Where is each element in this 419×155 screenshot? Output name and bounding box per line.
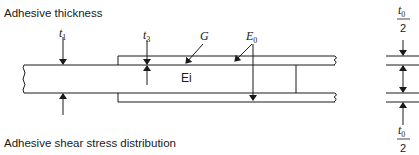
label-G: G [200, 29, 209, 43]
inner-adherend [23, 65, 335, 93]
label-t1: t1 [59, 26, 66, 42]
lap-joint-diagram: t1 t3 G E0 Ei t0 2 t0 2 [0, 0, 419, 155]
label-t3: t3 [143, 28, 150, 44]
G-leader [186, 44, 203, 63]
svg-text:t0: t0 [398, 3, 405, 19]
svg-text:t0: t0 [398, 123, 405, 139]
svg-text:2: 2 [400, 22, 406, 34]
label-E0: E0 [245, 29, 257, 45]
fraction-t0-over-2-top: t0 2 [397, 3, 410, 34]
outer-adherend-top [118, 56, 336, 65]
break-mark-left [23, 65, 25, 93]
caption-shear-stress-distribution: Adhesive shear stress distribution [4, 137, 176, 149]
outer-adherend-bottom [118, 93, 336, 102]
fraction-t0-over-2-bottom: t0 2 [397, 123, 410, 154]
thickness-detail [386, 40, 419, 125]
E0-leaders [235, 44, 253, 100]
label-Ei: Ei [181, 71, 192, 85]
svg-text:2: 2 [400, 142, 406, 154]
